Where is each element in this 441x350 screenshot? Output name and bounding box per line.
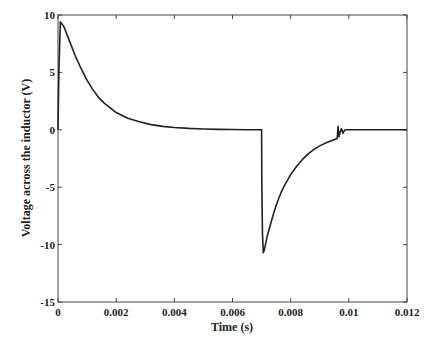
x-tick-label: 0: [55, 306, 61, 318]
x-tick-label: 0.006: [220, 306, 245, 318]
plot-area: [58, 15, 407, 302]
y-tick-label: -15: [40, 296, 55, 308]
y-tick-label: -5: [46, 181, 56, 193]
x-tick-label: 0.002: [104, 306, 129, 318]
y-axis-label: Voltage across the inductor (V): [19, 79, 33, 237]
x-axis-tick-labels: 00.0020.0040.0060.0080.010.012: [55, 306, 420, 318]
chart: 00.0020.0040.0060.0080.010.012 -15-10-50…: [0, 0, 441, 350]
y-tick-label: 0: [50, 124, 56, 136]
y-tick-label: 5: [50, 66, 56, 78]
x-tick-label: 0.004: [162, 306, 187, 318]
y-axis-tick-labels: -15-10-50510: [40, 9, 55, 308]
x-tick-label: 0.008: [278, 306, 303, 318]
y-tick-label: 10: [44, 9, 56, 21]
x-tick-label: 0.01: [339, 306, 358, 318]
x-axis-label: Time (s): [211, 320, 253, 334]
y-tick-label: -10: [40, 239, 55, 251]
x-tick-label: 0.012: [395, 306, 420, 318]
